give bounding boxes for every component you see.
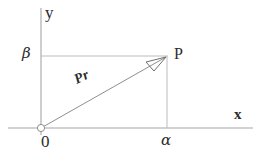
y-axis-label: y: [45, 4, 54, 21]
beta-tick-label: β: [22, 46, 31, 61]
x-axis-label: x: [234, 107, 242, 122]
origin-label: 0: [41, 133, 50, 150]
position-vector-figure: y x 0 P α β Pr: [0, 0, 260, 160]
vector-shaft: [41, 57, 166, 128]
alpha-tick-label: α: [161, 133, 171, 148]
origin-marker: [37, 124, 44, 131]
figure-canvas: [0, 0, 260, 160]
point-p-label: P: [174, 46, 183, 62]
